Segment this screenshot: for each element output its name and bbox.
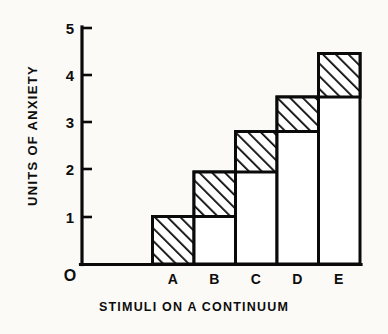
bar-A-hatch [153,217,195,265]
bar-B [194,172,236,264]
x-tick-label-d: D [292,271,303,287]
x-tick-labels-group: A B C D E [168,271,344,287]
y-tick-label-3: 3 [66,114,74,131]
bar-E-hatch [319,54,361,98]
bar-C [236,132,278,265]
bar-B-hatch [194,172,236,217]
y-tick-labels-group: 5 4 3 2 1 [66,20,75,226]
chart-plot-area: 5 4 3 2 1 O A B C D E [0,0,388,334]
y-tick-label-5: 5 [66,20,74,37]
origin-label: O [64,267,76,284]
y-tick-label-2: 2 [66,161,74,178]
x-tick-label-b: B [209,271,220,287]
y-tick-label-1: 1 [66,209,74,226]
bar-A [153,217,195,265]
bar-C-hatch [236,132,278,173]
bar-E [319,54,361,265]
x-tick-label-e: E [334,271,344,287]
y-tick-label-4: 4 [66,67,75,84]
bars-group [153,54,361,265]
x-axis-title: STIMULI ON A CONTINUUM [0,300,388,314]
x-axis-title-text: STIMULI ON A CONTINUUM [99,300,289,314]
bar-D-hatch [277,97,319,132]
x-tick-label-a: A [168,271,179,287]
bar-D [277,97,319,264]
x-tick-label-c: C [251,271,262,287]
bar-chart-figure: UNITS OF ANXIETY [0,0,388,334]
